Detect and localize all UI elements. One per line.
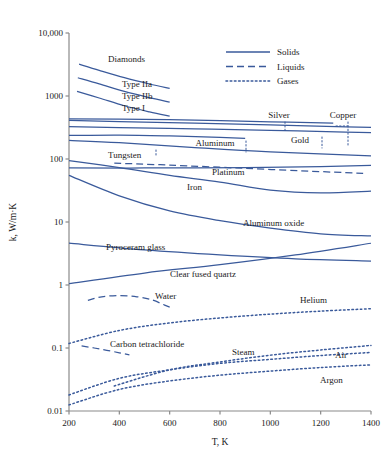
curve-label: Water [155, 291, 176, 301]
chart-background [0, 0, 388, 463]
curve-label: Gold [291, 135, 310, 145]
y-tick-label: 1 [59, 280, 64, 290]
y-tick-label: 10,000 [38, 28, 63, 38]
y-tick-label: 0.1 [52, 343, 63, 353]
curve-label: Air [335, 350, 347, 360]
curve-label: Helium [300, 295, 327, 305]
curve-label: Type IIb [122, 91, 153, 101]
curve-label: Clear fused quartz [170, 269, 236, 279]
curve-label: Argon [320, 375, 343, 385]
y-axis-title: k, W/m·K [8, 203, 18, 241]
curve-label: Iron [187, 182, 202, 192]
legend-label-gases: Gases [277, 76, 299, 86]
legend-label-solids: Solids [277, 47, 300, 57]
x-tick-label: 1200 [312, 418, 331, 428]
x-tick-label: 800 [213, 418, 227, 428]
curve-label: Tungsten [108, 150, 142, 160]
y-tick-label: 0.01 [47, 406, 63, 416]
y-tick-label: 100 [50, 154, 64, 164]
curve-label: Carbon tetrachloride [110, 339, 184, 349]
curve-label: Pyroceram glass [106, 242, 166, 252]
chart-canvas: 0.010.1110100100010,00020040060080010001… [0, 0, 388, 463]
curve-label: Platinum [212, 167, 245, 177]
curve-label: Silver [268, 110, 290, 120]
x-tick-label: 1000 [261, 418, 280, 428]
x-tick-label: 1400 [362, 418, 381, 428]
x-tick-label: 600 [163, 418, 177, 428]
y-tick-label: 1000 [45, 91, 64, 101]
curve-label: Type IIa [122, 79, 152, 89]
curve-label: Copper [330, 110, 357, 120]
y-tick-label: 10 [54, 217, 64, 227]
x-tick-label: 200 [62, 418, 76, 428]
curve-label: Steam [232, 347, 255, 357]
curve-label: Aluminum [195, 138, 234, 148]
thermal-conductivity-chart: 0.010.1110100100010,00020040060080010001… [0, 0, 388, 463]
x-axis-title: T, K [212, 437, 229, 447]
svg-text:k, W/m·K: k, W/m·K [8, 203, 18, 241]
curve-label: Diamonds [108, 54, 145, 64]
legend-label-liquids: Liquids [277, 62, 305, 72]
curve-label: Aluminum oxide [243, 218, 304, 228]
x-tick-label: 400 [113, 418, 127, 428]
curve-label: Type I [122, 103, 145, 113]
